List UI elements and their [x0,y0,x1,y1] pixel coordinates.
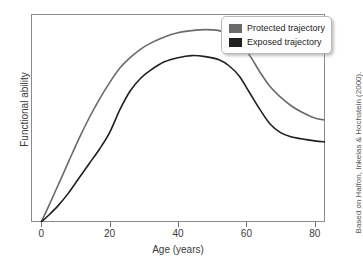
x-tick-0 [41,222,42,227]
source-credit: Based on Halfon, Inkelas & Hochstein (20… [354,63,363,243]
legend-item-exposed[interactable]: Exposed trajectory [229,35,326,49]
x-tick-20 [110,222,111,227]
x-tick-80 [315,222,316,227]
x-tick-label-20: 20 [95,228,125,240]
chart-legend: Protected trajectory Exposed trajectory [221,16,332,54]
x-tick-40 [178,222,179,227]
x-tick-label-0: 0 [26,228,56,240]
x-tick-label-40: 40 [163,228,193,240]
x-tick-60 [246,222,247,227]
series-line-exposed [41,56,325,222]
x-axis-title: Age (years) [31,244,325,255]
legend-item-protected[interactable]: Protected trajectory [229,21,326,35]
y-axis-title: Functional ability [19,40,30,180]
x-tick-label-80: 80 [300,228,330,240]
x-tick-label-60: 60 [231,228,261,240]
legend-label-protected: Protected trajectory [247,23,325,34]
legend-swatch-exposed [229,38,242,47]
series-group [41,30,325,222]
legend-swatch-protected [229,24,242,33]
series-line-protected [41,30,325,222]
legend-label-exposed: Exposed trajectory [247,37,322,48]
